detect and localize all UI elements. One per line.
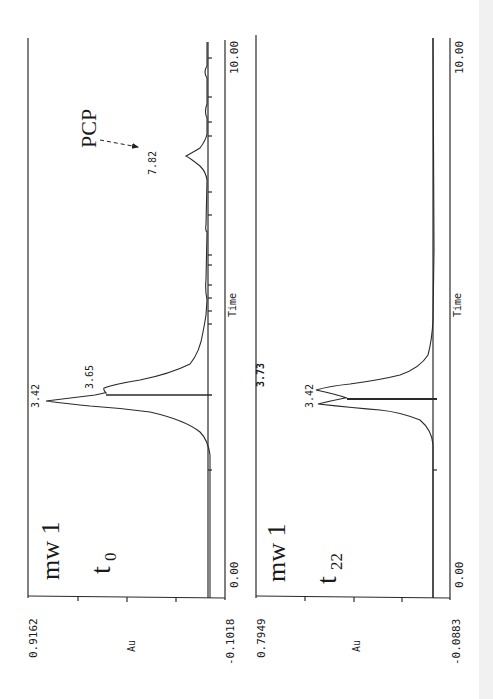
panel-t22-labels: 0.7949 Au -0.0883 0.00 10.00 Time mw 1 t… (255, 41, 466, 665)
peak-label-3.73: 3.73 (255, 363, 266, 387)
pcp-arrow (100, 140, 138, 147)
chromatogram-svg: 0.9162 Au -0.1018 0.00 10.00 Time mw 1 t… (0, 0, 493, 699)
x-end-label: 10.00 (228, 41, 241, 74)
panel-t22 (256, 35, 450, 602)
x-start-label: 0.00 (228, 562, 241, 589)
peak-label-3.42: 3.42 (30, 384, 41, 408)
time-ticks (208, 58, 212, 470)
y-axis-label: Au (351, 640, 362, 652)
chromatogram-figure: 0.9162 Au -0.1018 0.00 10.00 Time mw 1 t… (0, 0, 493, 699)
x-axis-label: Time (227, 293, 238, 317)
x-start-label: 0.00 (453, 562, 466, 589)
pcp-annotation: PCP (76, 109, 101, 148)
au-axis (256, 596, 450, 598)
y-min-label: -0.0883 (450, 619, 463, 665)
time-subscript: 0 (101, 553, 120, 562)
panel-t0-labels: 0.9162 Au -0.1018 0.00 10.00 Time mw 1 t… (27, 41, 241, 665)
trace-t22 (316, 38, 434, 598)
y-max-label: 0.9162 (27, 618, 40, 658)
peak-label-7.82: 7.82 (147, 151, 158, 175)
sample-label: mw 1 (262, 524, 291, 583)
x-end-label: 10.00 (453, 41, 466, 74)
time-label: t (311, 576, 342, 584)
peak-label-3.42: 3.42 (304, 384, 315, 408)
scan-edge (479, 0, 493, 699)
time-label: t (85, 566, 116, 574)
trace-t0 (46, 42, 210, 598)
time-subscript: 22 (327, 553, 346, 570)
peak-label-3.65: 3.65 (84, 365, 95, 389)
panel-t0 (28, 38, 225, 602)
y-axis-label: Au (126, 640, 137, 652)
y-min-label: -0.1018 (224, 619, 237, 665)
sample-label: mw 1 (36, 522, 65, 581)
y-max-label: 0.7949 (255, 618, 268, 658)
x-axis-label: Time (452, 293, 463, 317)
